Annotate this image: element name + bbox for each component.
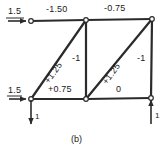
joint-top-right	[150, 17, 155, 22]
label-bottom-left-chord-force: +0.75	[48, 85, 72, 94]
member-top-right-chord	[86, 19, 152, 20]
label-middle-vertical-force: -1	[72, 54, 80, 63]
member-top-left-chord	[31, 20, 86, 21]
member-bottom-right-chord	[86, 98, 151, 99]
label-right-vertical-load: 1	[155, 112, 160, 120]
load-arrows	[8, 21, 151, 124]
truss-figure: 1.5 1.5 -1.50 -0.75 +0.75 0 +1.25 +1.25 …	[0, 0, 162, 156]
label-top-horizontal-load: 1.5	[8, 7, 21, 16]
label-bottom-horizontal-load: 1.5	[8, 86, 21, 95]
truss-diagram-svg	[0, 0, 162, 156]
member-right-vertical	[151, 19, 152, 98]
joint-top-middle	[84, 18, 89, 23]
figure-caption: (b)	[71, 134, 82, 144]
label-right-vertical-force: -1	[137, 54, 145, 63]
label-top-right-chord-force: -0.75	[104, 4, 126, 13]
joint-bottom-right	[149, 96, 154, 101]
joint-bottom-middle	[84, 97, 89, 102]
label-left-vertical-load: 1	[35, 113, 40, 121]
label-top-left-chord-force: -1.50	[46, 5, 68, 14]
joint-top-left	[29, 19, 34, 24]
label-bottom-right-chord-force: 0	[116, 85, 121, 94]
